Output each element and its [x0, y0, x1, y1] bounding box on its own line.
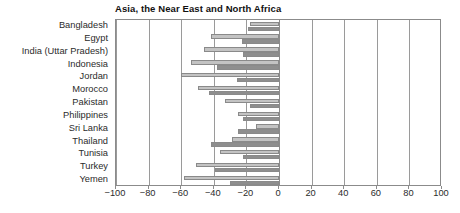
y-axis-label: Pakistan [72, 96, 108, 109]
bar [237, 78, 279, 82]
bar-group [116, 46, 440, 59]
bar [230, 181, 279, 185]
bar-group [116, 123, 440, 136]
bar-group [116, 148, 440, 161]
bar [248, 27, 279, 31]
bar [211, 142, 279, 146]
bar [250, 22, 279, 26]
plot-area [115, 19, 441, 186]
x-tick-label: 80 [403, 188, 413, 198]
x-tick-mark [115, 186, 116, 189]
y-axis-label: Morocco [72, 83, 108, 96]
x-axis-tick-labels: −100−80−60−40−20020406080100 [115, 188, 441, 204]
bar [209, 91, 279, 95]
bar [243, 155, 279, 159]
y-axis-label: Sri Lanka [69, 122, 108, 135]
bar [215, 168, 279, 172]
y-axis-label: Philippines [63, 109, 108, 122]
x-tick-mark [376, 186, 377, 189]
y-axis-label: Thailand [72, 135, 108, 148]
y-axis-label: Bangladesh [59, 19, 108, 32]
x-tick-label: −80 [140, 188, 156, 198]
bar-group [116, 136, 440, 149]
bar-group [116, 161, 440, 174]
x-tick-label: −100 [105, 188, 126, 198]
x-tick-mark [343, 186, 344, 189]
bar [196, 163, 279, 167]
y-axis-label: India (Uttar Pradesh) [22, 45, 108, 58]
y-axis-category-labels: BangladeshEgyptIndia (Uttar Pradesh)Indo… [0, 19, 112, 186]
y-axis-label: Jordan [80, 70, 108, 83]
x-tick-label: 60 [371, 188, 381, 198]
bar-group [116, 59, 440, 72]
bar [238, 129, 279, 133]
bar [211, 34, 279, 38]
bar [184, 176, 279, 180]
x-tick-label: 0 [275, 188, 280, 198]
bar [243, 117, 279, 121]
bar [232, 137, 279, 141]
bar [204, 47, 279, 51]
bar [217, 65, 279, 69]
y-axis-label: Turkey [80, 160, 108, 173]
bar [191, 60, 279, 64]
chart-figure: Asia, the Near East and North Africa Ban… [0, 0, 460, 213]
bar-group [116, 33, 440, 46]
y-axis-label: Yemen [79, 173, 108, 186]
bar-group [116, 71, 440, 84]
x-tick-label: −60 [172, 188, 188, 198]
y-axis-label: Egypt [84, 32, 108, 45]
bar [220, 150, 279, 154]
x-tick-label: −40 [205, 188, 221, 198]
x-tick-mark [278, 186, 279, 189]
bar [256, 124, 279, 128]
bar-group [116, 110, 440, 123]
bar [242, 39, 279, 43]
bar-group [116, 84, 440, 97]
bar [181, 73, 279, 77]
bar-group [116, 97, 440, 110]
chart-title: Asia, the Near East and North Africa [115, 3, 278, 14]
y-axis-label: Indonesia [68, 58, 108, 71]
x-tick-mark [408, 186, 409, 189]
bar [225, 99, 279, 103]
bar [250, 104, 279, 108]
x-tick-mark [180, 186, 181, 189]
x-tick-mark [441, 186, 442, 189]
bar [238, 112, 279, 116]
x-tick-label: 20 [305, 188, 315, 198]
x-tick-label: 100 [433, 188, 449, 198]
y-axis-label: Tunisia [78, 147, 108, 160]
x-tick-mark [311, 186, 312, 189]
bar [243, 52, 279, 56]
x-tick-mark [213, 186, 214, 189]
bar-group [116, 20, 440, 33]
x-tick-label: 40 [338, 188, 348, 198]
bar-group [116, 174, 440, 186]
x-tick-label: −20 [238, 188, 254, 198]
bar [198, 86, 280, 90]
x-tick-mark [245, 186, 246, 189]
x-tick-mark [148, 186, 149, 189]
